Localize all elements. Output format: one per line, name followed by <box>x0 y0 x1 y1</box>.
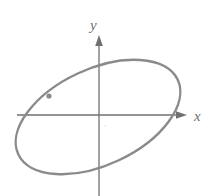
x-axis-arrowhead <box>176 111 187 119</box>
background-speck <box>104 125 106 127</box>
coordinate-plot: y x <box>0 0 222 196</box>
figure-canvas: y x <box>0 0 222 196</box>
x-axis-label: x <box>193 108 201 124</box>
y-axis-label: y <box>88 17 97 33</box>
curve-point-marker <box>46 93 51 98</box>
y-axis-arrowhead <box>95 35 103 46</box>
